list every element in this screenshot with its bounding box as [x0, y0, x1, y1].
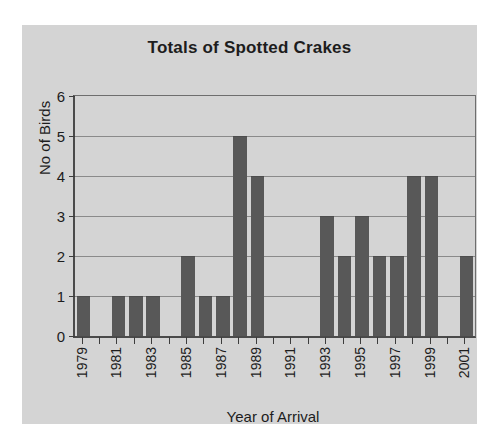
x-axis-tick-slot	[177, 337, 194, 345]
bar-slot	[284, 96, 301, 336]
y-axis-tick-label: 3	[57, 208, 65, 225]
x-axis-tick-mark	[395, 337, 396, 344]
x-axis-label-slot	[125, 347, 142, 405]
x-axis-labels: 1979198119831985198719891991199319951997…	[73, 347, 473, 405]
y-axis-title: No of Birds	[36, 101, 53, 175]
x-axis-label-slot	[264, 347, 281, 405]
bar-slot	[353, 96, 370, 336]
x-axis-tick-slot	[386, 337, 403, 345]
bar	[129, 296, 143, 336]
x-axis-label-slot	[369, 347, 386, 405]
x-axis-tick-mark	[116, 337, 117, 344]
bar	[251, 176, 265, 336]
x-axis-label-slot: 1989	[247, 347, 264, 405]
x-axis-label-slot	[403, 347, 420, 405]
bar-slot	[232, 96, 249, 336]
x-axis-tick-mark	[151, 337, 152, 344]
x-axis-tick-slot	[456, 337, 473, 345]
x-axis-tick-mark	[308, 337, 309, 344]
x-axis-tick-slot	[316, 337, 333, 345]
x-axis-tick-slot	[438, 337, 455, 345]
x-axis-tick-mark	[447, 337, 448, 344]
bar	[390, 256, 404, 336]
x-axis-tick-mark	[464, 337, 465, 344]
x-axis-label-slot: 1999	[421, 347, 438, 405]
chart-title: Totals of Spotted Crakes	[22, 38, 477, 58]
x-axis-tick-label: 1999	[422, 347, 438, 378]
bar-slot	[440, 96, 457, 336]
x-axis-tick-slot	[212, 337, 229, 345]
x-axis-tick-label: 1991	[282, 347, 298, 378]
x-axis-tick-slot	[334, 337, 351, 345]
bar-slot	[301, 96, 318, 336]
x-axis-tick-label: 1983	[143, 347, 159, 378]
x-axis-label-slot	[195, 347, 212, 405]
bar-slot	[214, 96, 231, 336]
x-axis-tick-slot	[299, 337, 316, 345]
bar-slot	[266, 96, 283, 336]
bar	[373, 256, 387, 336]
bar-slot	[371, 96, 388, 336]
x-axis-label-slot	[299, 347, 316, 405]
bar	[112, 296, 126, 336]
x-axis-ticks	[73, 337, 473, 345]
x-axis-tick-label: 1989	[248, 347, 264, 378]
x-axis-tick-mark	[412, 337, 413, 344]
x-axis-tick-label: 1995	[352, 347, 368, 378]
bar	[77, 296, 91, 336]
x-axis-tick-mark	[273, 337, 274, 344]
x-axis-tick-slot	[108, 337, 125, 345]
x-axis-tick-mark	[221, 337, 222, 344]
x-axis-tick-mark	[430, 337, 431, 344]
x-axis-tick-label: 2001	[456, 347, 472, 378]
x-axis-label-slot: 1979	[73, 347, 90, 405]
bar	[199, 296, 213, 336]
x-axis-title: Year of Arrival	[73, 408, 473, 425]
y-axis-tick-label: 6	[57, 88, 65, 105]
bar-slot	[110, 96, 127, 336]
bars-layer	[75, 96, 475, 336]
x-axis-label-slot	[334, 347, 351, 405]
x-axis-tick-slot	[264, 337, 281, 345]
x-axis-label-slot: 1987	[212, 347, 229, 405]
y-axis-tick-label: 4	[57, 168, 65, 185]
plot-area: 6543210	[73, 95, 476, 338]
x-axis-tick-mark	[377, 337, 378, 344]
x-axis-label-slot: 2001	[456, 347, 473, 405]
bar-slot	[388, 96, 405, 336]
bar-slot	[336, 96, 353, 336]
bar	[146, 296, 160, 336]
bar-slot	[197, 96, 214, 336]
bar-slot	[75, 96, 92, 336]
x-axis-tick-mark	[360, 337, 361, 344]
x-axis-tick-slot	[421, 337, 438, 345]
x-axis-label-slot: 1985	[177, 347, 194, 405]
bar-slot	[458, 96, 475, 336]
y-axis-tick-label: 2	[57, 248, 65, 265]
x-axis-tick-slot	[403, 337, 420, 345]
x-axis-tick-mark	[82, 337, 83, 344]
x-axis-tick-slot	[369, 337, 386, 345]
x-axis-tick-label: 1993	[317, 347, 333, 378]
bar	[338, 256, 352, 336]
x-axis-tick-label: 1987	[213, 347, 229, 378]
bar-slot	[145, 96, 162, 336]
x-axis-tick-mark	[203, 337, 204, 344]
x-axis-label-slot: 1991	[282, 347, 299, 405]
bar-slot	[405, 96, 422, 336]
x-axis-tick-slot	[73, 337, 90, 345]
bar-slot	[179, 96, 196, 336]
x-axis-tick-slot	[247, 337, 264, 345]
chart-screenshot: Totals of Spotted Crakes No of Birds 654…	[0, 0, 499, 437]
chart-plate: Totals of Spotted Crakes No of Birds 654…	[22, 25, 477, 424]
bar	[233, 136, 247, 336]
x-axis-label-slot: 1981	[108, 347, 125, 405]
x-axis-label-slot: 1995	[351, 347, 368, 405]
x-axis-label-slot: 1983	[143, 347, 160, 405]
x-axis-tick-slot	[195, 337, 212, 345]
bar	[355, 216, 369, 336]
x-axis-tick-mark	[134, 337, 135, 344]
bar-slot	[162, 96, 179, 336]
x-axis-tick-slot	[351, 337, 368, 345]
bar-slot	[249, 96, 266, 336]
